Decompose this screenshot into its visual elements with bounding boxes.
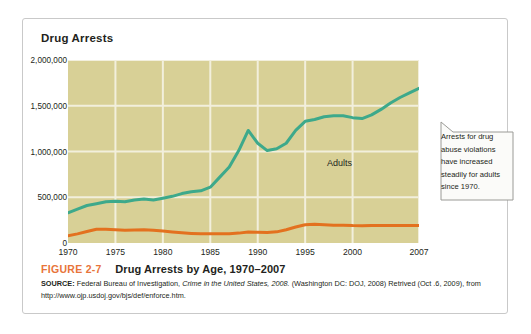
source-label: SOURCE: <box>41 279 75 288</box>
x-axis-tick-label: 1985 <box>201 247 220 257</box>
x-axis-tick-label: 1995 <box>296 247 315 257</box>
x-axis-tick-label: 2007 <box>409 247 428 257</box>
y-axis-tick-label: 1,500,000 <box>0 101 67 110</box>
y-axis: 2,000,0001,500,0001,000,000500,0000 <box>0 60 67 243</box>
x-axis-tick-label: 1980 <box>153 247 172 257</box>
chart-plot-svg <box>68 60 419 243</box>
x-axis-tick-label: 1975 <box>106 247 125 257</box>
gridlines <box>68 60 419 243</box>
source-text-italic: Crime in the United States, 2008. <box>182 279 289 288</box>
source-text-part1: Federal Bureau of Investigation, <box>75 279 183 288</box>
figure-title: Drug Arrests by Age, 1970–2007 <box>115 263 285 275</box>
plot-area: Adults Juveniles <box>68 60 419 243</box>
y-axis-tick-label: 500,000 <box>0 193 67 202</box>
chart-title: Drug Arrests <box>41 32 113 44</box>
x-axis-tick-label: 1990 <box>248 247 267 257</box>
y-axis-tick-label: 1,000,000 <box>0 147 67 156</box>
x-axis-tick-label: 2000 <box>343 247 362 257</box>
y-axis-tick-label: 0 <box>0 239 67 248</box>
series-lines <box>68 88 419 235</box>
series-label-adults: Adults <box>327 158 352 168</box>
source-note: SOURCE: Federal Bureau of Investigation,… <box>41 278 493 301</box>
figure-caption: FIGURE 2-7 Drug Arrests by Age, 1970–200… <box>41 259 491 277</box>
figure-card: Drug Arrests 2,000,0001,500,0001,000,000… <box>22 18 508 314</box>
callout-text: Arrests for drug abuse violations have i… <box>441 131 507 194</box>
series-line-juveniles <box>68 224 419 235</box>
y-axis-tick-label: 2,000,000 <box>0 56 67 65</box>
x-axis-tick-label: 1970 <box>58 247 77 257</box>
callout-annotation: Arrests for drug abuse violations have i… <box>419 119 515 203</box>
figure-number: FIGURE 2-7 <box>41 263 102 275</box>
